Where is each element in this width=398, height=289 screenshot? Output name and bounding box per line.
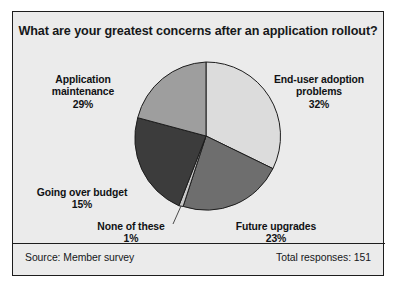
slice-label-name-line1: End-user adoption [274,74,364,85]
slice-label-application-maintenance: Application maintenance 29% [23,74,143,111]
chart-card: What are your greatest concerns after an… [12,11,384,276]
slice-label-end-user-adoption: End-user adoption problems 32% [259,74,379,111]
slice-label-going-over-budget: Going over budget 15% [17,187,147,212]
slice-label-name-line2: problems [296,86,342,97]
footer-divider [13,243,385,244]
source-note: Source: Member survey [25,252,134,263]
slice-label-name-line2: maintenance [52,86,114,97]
slice-label-name: None of these [97,221,164,232]
slice-label-value: 32% [259,99,379,111]
slice-label-value: 15% [17,199,147,211]
slice-label-value: 29% [23,99,143,111]
slice-label-name: Future upgrades [236,221,316,232]
slice-label-name: Going over budget [37,187,128,198]
total-responses-note: Total responses: 151 [276,252,371,263]
slice-label-name-line1: Application [55,74,110,85]
